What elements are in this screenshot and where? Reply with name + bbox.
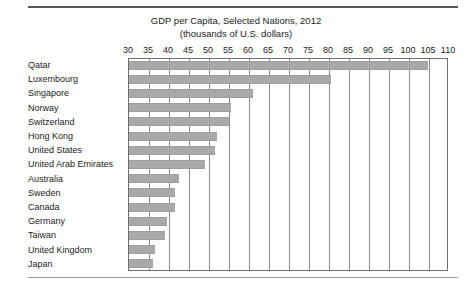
bar xyxy=(129,174,179,183)
category-label: Qatar xyxy=(28,58,124,72)
chart-title: GDP per Capita, Selected Nations, 2012 xyxy=(0,14,472,27)
bar xyxy=(129,160,205,169)
bar-rows: QatarLuxembourgSingaporeNorwaySwitzerlan… xyxy=(0,58,472,271)
bar-row: United Kingdom xyxy=(0,243,472,257)
bar xyxy=(129,231,165,240)
bar-row: Singapore xyxy=(0,86,472,100)
bar-row: Canada xyxy=(0,200,472,214)
bar-row: Norway xyxy=(0,101,472,115)
x-tick-label: 110 xyxy=(435,44,461,56)
bar-row: Australia xyxy=(0,172,472,186)
bar xyxy=(129,188,175,197)
category-label: Taiwan xyxy=(28,228,124,242)
bar-row: United States xyxy=(0,143,472,157)
bottom-rule xyxy=(28,277,458,278)
category-label: Sweden xyxy=(28,186,124,200)
category-label: Australia xyxy=(28,172,124,186)
category-label: United Arab Emirates xyxy=(28,157,124,171)
bar-row: Qatar xyxy=(0,58,472,72)
bar xyxy=(129,203,175,212)
bar xyxy=(129,245,155,254)
chart-titles: GDP per Capita, Selected Nations, 2012 (… xyxy=(0,14,472,40)
bar xyxy=(129,75,331,84)
category-label: Canada xyxy=(28,200,124,214)
bar-row: Japan xyxy=(0,257,472,271)
top-rule xyxy=(28,6,458,8)
bar xyxy=(129,132,217,141)
category-label: United States xyxy=(28,143,124,157)
category-label: Singapore xyxy=(28,86,124,100)
bar xyxy=(129,103,231,112)
category-label: United Kingdom xyxy=(28,243,124,257)
bar-row: Luxembourg xyxy=(0,72,472,86)
x-axis-tick-labels: 3035404550556065707580859095100105110 xyxy=(0,44,472,58)
bar xyxy=(129,146,215,155)
bar xyxy=(129,61,428,70)
bar xyxy=(129,259,153,268)
bar-row: Switzerland xyxy=(0,115,472,129)
bar-row: Taiwan xyxy=(0,228,472,242)
chart-figure: GDP per Capita, Selected Nations, 2012 (… xyxy=(0,0,472,284)
category-label: Norway xyxy=(28,101,124,115)
bar-row: Sweden xyxy=(0,186,472,200)
bar xyxy=(129,89,253,98)
bar-row: Germany xyxy=(0,214,472,228)
bar-row: United Arab Emirates xyxy=(0,157,472,171)
category-label: Japan xyxy=(28,257,124,271)
bar xyxy=(129,217,167,226)
chart-subtitle: (thousands of U.S. dollars) xyxy=(0,27,472,40)
category-label: Switzerland xyxy=(28,115,124,129)
bar xyxy=(129,117,229,126)
bar-row: Hong Kong xyxy=(0,129,472,143)
category-label: Luxembourg xyxy=(28,72,124,86)
category-label: Hong Kong xyxy=(28,129,124,143)
category-label: Germany xyxy=(28,214,124,228)
